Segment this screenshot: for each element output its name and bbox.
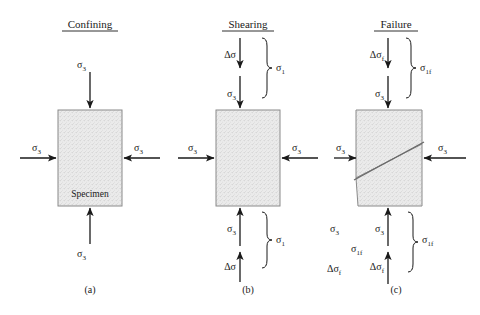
panel-b-caption: (b): [242, 284, 254, 296]
panel-b-specimen-box: [216, 110, 280, 206]
panel-c-title: Failure: [380, 18, 411, 30]
panel-a-caption: (a): [84, 284, 95, 296]
panel-b-label-bottom-outer: Δσ: [224, 261, 236, 272]
panel-c-caption: (c): [390, 284, 401, 296]
triaxial-test-figure: Confining Specimen σ3 σ3 σ3 σ3 (a) Shear…: [0, 0, 480, 315]
figure-canvas: Confining Specimen σ3 σ3 σ3 σ3 (a) Shear…: [0, 0, 480, 315]
panel-b-label-top-outer: Δσ: [224, 49, 236, 60]
panel-b-title: Shearing: [228, 18, 268, 30]
panel-c-specimen-group: [354, 110, 424, 206]
panel-a-specimen-label: Specimen: [71, 189, 109, 199]
panel-a-title: Confining: [68, 18, 113, 30]
